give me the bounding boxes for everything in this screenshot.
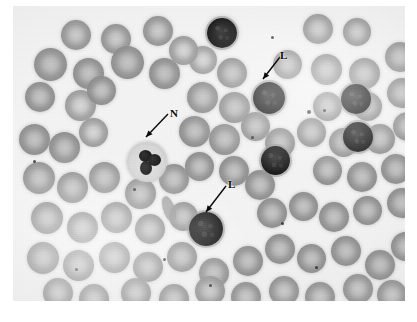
label-l-bottom-text: L — [228, 179, 235, 190]
micrograph-page: NLL — [0, 0, 417, 322]
annotation-label-l-bottom: L — [13, 6, 405, 301]
label-l-bottom-arrow-icon — [13, 6, 405, 301]
blood-smear-micrograph: NLL — [13, 6, 405, 301]
